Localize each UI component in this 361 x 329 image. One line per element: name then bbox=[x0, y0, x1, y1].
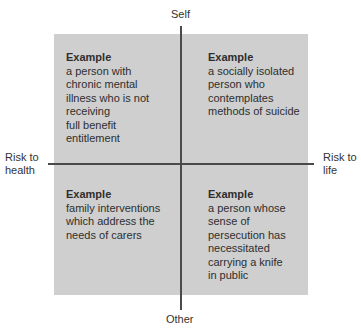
quadrant-text: a person whose sense of persecution has … bbox=[208, 202, 286, 283]
quadrant-top-right: Example a socially isolated person who c… bbox=[208, 51, 300, 119]
quadrant-text: a person with chronic mental illness who… bbox=[66, 65, 149, 146]
quadrant-title: Example bbox=[208, 188, 286, 202]
quadrant-title: Example bbox=[66, 51, 149, 65]
quadrant-top-left: Example a person with chronic mental ill… bbox=[66, 51, 149, 146]
axis-label-other: Other bbox=[166, 313, 194, 326]
quadrant-text: a socially isolated person who contempla… bbox=[208, 65, 300, 119]
quadrant-text: family interventions which address the n… bbox=[66, 202, 160, 243]
quadrant-bottom-right: Example a person whose sense of persecut… bbox=[208, 188, 286, 283]
vertical-axis bbox=[180, 26, 182, 310]
axis-label-risk-to-health: Risk to health bbox=[5, 151, 39, 177]
axis-label-risk-to-life: Risk to life bbox=[323, 151, 357, 177]
axis-label-self: Self bbox=[171, 8, 190, 21]
quadrant-bottom-left: Example family interventions which addre… bbox=[66, 188, 160, 242]
quadrant-title: Example bbox=[66, 188, 160, 202]
quadrant-title: Example bbox=[208, 51, 300, 65]
horizontal-axis bbox=[48, 163, 314, 165]
